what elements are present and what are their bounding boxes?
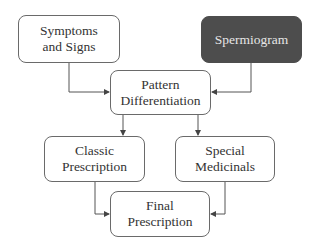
node-spermiogram: Spermiogram xyxy=(201,16,302,63)
edge-special-to-final xyxy=(211,182,225,214)
node-pattern-differentiation: Pattern Differentiation xyxy=(110,70,211,115)
node-special-medicinals: Special Medicinals xyxy=(175,136,275,182)
node-symptoms-and-signs: Symptoms and Signs xyxy=(18,15,120,63)
edge-classic-to-final xyxy=(95,182,109,214)
node-classic-prescription: Classic Prescription xyxy=(44,136,145,182)
edge-symptoms-to-pattern xyxy=(69,63,109,92)
edge-spermiogram-to-pattern xyxy=(212,63,251,92)
node-final-prescription: Final Prescription xyxy=(110,191,210,237)
